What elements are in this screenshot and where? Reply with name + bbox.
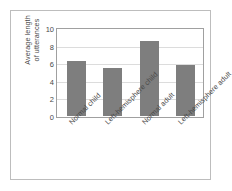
y-tick-label: 4 [50,77,54,86]
y-tick-label: 0 [50,113,54,122]
figure-frame: Average length of utterances 0246810 Nor… [10,10,211,180]
y-tick-label: 8 [50,42,54,51]
y-tick-label: 10 [46,25,54,34]
y-tick-label: 2 [50,95,54,104]
y-tick-label: 6 [50,60,54,69]
